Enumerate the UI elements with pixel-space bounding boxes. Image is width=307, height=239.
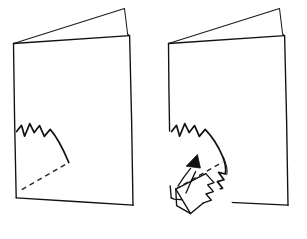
diagram-root: Paper folding step diagram Two-panel lin… [0, 0, 307, 239]
paper-folding-diagram [0, 0, 307, 239]
right-panel [169, 9, 289, 214]
left-panel [14, 9, 134, 206]
right-front-face [169, 36, 289, 206]
right-front-face-fill [169, 36, 289, 205]
left-front-face-fill [14, 36, 134, 205]
left-front-face [14, 36, 134, 206]
